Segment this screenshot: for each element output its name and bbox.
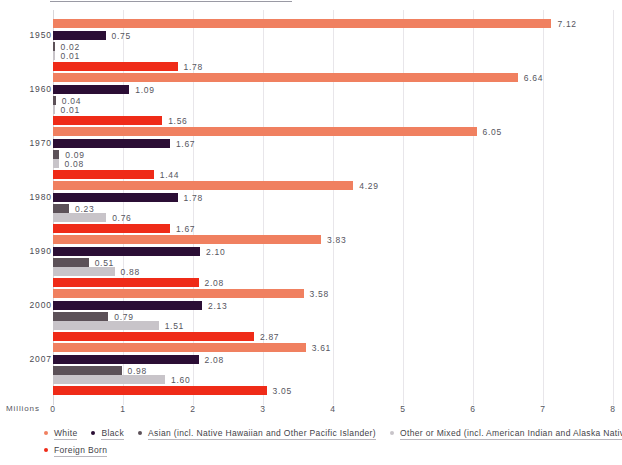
year-group-1990: 19903.832.100.510.882.08 <box>0 226 622 280</box>
bar-row: 0.02 <box>53 37 80 46</box>
bar-value-label: 6.64 <box>524 73 543 83</box>
year-group-1980: 19804.291.780.230.761.67 <box>0 172 622 226</box>
legend-item-asian[interactable]: Asian (incl. Native Hawaiian and Other P… <box>138 424 376 442</box>
bar-value-label: 1.09 <box>135 85 154 95</box>
year-label-1980: 1980 <box>8 192 52 202</box>
bar-row: 1.60 <box>53 370 190 379</box>
x-tick-2: 2 <box>190 404 196 414</box>
legend-label: Black <box>101 428 124 440</box>
bar-row: 0.75 <box>53 26 131 35</box>
bar-row: 1.78 <box>53 188 203 197</box>
bar-row: 1.09 <box>53 80 155 89</box>
x-tick-3: 3 <box>260 404 266 414</box>
legend-row: Foreign Born <box>44 441 622 458</box>
legend-item-black[interactable]: Black <box>91 424 124 442</box>
year-label-2007: 2007 <box>8 354 52 364</box>
year-group-2000: 20003.582.130.791.512.87 <box>0 280 622 334</box>
bar-row: 2.10 <box>53 242 225 251</box>
bar-value-label: 3.58 <box>310 289 329 299</box>
bar-row: 1.67 <box>53 134 195 143</box>
bar-row: 3.05 <box>53 381 292 390</box>
bar-row: 3.61 <box>53 338 331 347</box>
bar-value-label: 1.67 <box>176 139 195 149</box>
bar-row: 7.12 <box>53 14 577 23</box>
bar-row: 1.51 <box>53 316 184 325</box>
bar-row: 3.83 <box>53 230 346 239</box>
legend-label: Other or Mixed (incl. American Indian an… <box>400 428 622 440</box>
legend-item-foreign[interactable]: Foreign Born <box>44 441 107 459</box>
bars-1970: 6.051.670.090.081.44 <box>53 118 622 172</box>
bars-1990: 3.832.100.510.882.08 <box>53 226 622 280</box>
x-tick-0: 0 <box>50 404 56 414</box>
legend-swatch-icon <box>91 431 95 435</box>
legend-swatch-icon <box>390 431 394 435</box>
bars-2007: 3.612.080.981.603.05 <box>53 334 622 388</box>
year-group-2007: 20073.612.080.981.603.05 <box>0 334 622 388</box>
x-axis-caption: Millions <box>6 404 40 413</box>
bar-row: 0.23 <box>53 199 94 208</box>
bar-row: 0.01 <box>53 46 80 55</box>
bar-row: 6.64 <box>53 68 543 77</box>
bar-row: 0.09 <box>53 145 85 154</box>
bar-row: 0.88 <box>53 262 140 271</box>
bars-1950: 7.120.750.020.011.78 <box>53 10 622 64</box>
bar-row: 0.08 <box>53 154 84 163</box>
year-label-2000: 2000 <box>8 300 52 310</box>
legend-item-white[interactable]: White <box>44 424 77 442</box>
bar-row: 2.08 <box>53 350 224 359</box>
legend-swatch-icon <box>138 431 142 435</box>
bar-value-label: 2.10 <box>206 247 225 257</box>
bar-row: 3.58 <box>53 284 329 293</box>
bar-row: 0.01 <box>53 100 80 109</box>
bars-1980: 4.291.780.230.761.67 <box>53 172 622 226</box>
year-label-1950: 1950 <box>8 30 52 40</box>
year-label-1990: 1990 <box>8 246 52 256</box>
x-tick-1: 1 <box>120 404 126 414</box>
bar-value-label: 2.08 <box>205 355 224 365</box>
bar-value-label: 1.78 <box>184 193 203 203</box>
year-group-1970: 19706.051.670.090.081.44 <box>0 118 622 172</box>
year-group-1960: 19606.641.090.040.011.56 <box>0 64 622 118</box>
x-tick-8: 8 <box>610 404 616 414</box>
chart-container: Millions 012345678 WhiteBlackAsian (incl… <box>0 0 622 465</box>
legend-label: White <box>54 428 77 440</box>
bar-row: 6.05 <box>53 122 502 131</box>
x-tick-5: 5 <box>400 404 406 414</box>
x-tick-7: 7 <box>540 404 546 414</box>
bar-row: 4.29 <box>53 176 379 185</box>
x-axis: Millions 012345678 <box>0 402 622 418</box>
bar-row: 0.51 <box>53 253 114 262</box>
year-group-1950: 19507.120.750.020.011.78 <box>0 10 622 64</box>
year-label-1960: 1960 <box>8 84 52 94</box>
bar-row: 0.04 <box>53 91 81 100</box>
bar-value-label: 3.83 <box>327 235 346 245</box>
bars-2000: 3.582.130.791.512.87 <box>53 280 622 334</box>
bar-value-label: 0.75 <box>112 31 131 41</box>
legend-label: Asian (incl. Native Hawaiian and Other P… <box>148 428 376 440</box>
legend-swatch-icon <box>44 448 48 452</box>
chart-legend: WhiteBlackAsian (incl. Native Hawaiian a… <box>44 424 622 458</box>
bar-value-label: 3.61 <box>312 343 331 353</box>
bar-row: 2.13 <box>53 296 227 305</box>
bar-2007-foreign-born[interactable] <box>53 386 267 395</box>
bars-1960: 6.641.090.040.011.56 <box>53 64 622 118</box>
x-tick-4: 4 <box>330 404 336 414</box>
bar-row: 0.79 <box>53 307 134 316</box>
legend-label: Foreign Born <box>54 445 107 457</box>
bar-value-label: 2.13 <box>208 301 227 311</box>
bar-value-label: 4.29 <box>359 181 378 191</box>
title-underline-rule <box>50 1 292 2</box>
legend-item-other[interactable]: Other or Mixed (incl. American Indian an… <box>390 424 622 442</box>
x-tick-6: 6 <box>470 404 476 414</box>
legend-row: WhiteBlackAsian (incl. Native Hawaiian a… <box>44 424 622 441</box>
bar-value-label: 3.05 <box>273 386 292 396</box>
bar-value-label: 7.12 <box>557 19 576 29</box>
bar-value-label: 6.05 <box>483 127 502 137</box>
year-label-1970: 1970 <box>8 138 52 148</box>
bar-row: 0.98 <box>53 361 147 370</box>
legend-swatch-icon <box>44 431 48 435</box>
bar-row: 0.76 <box>53 208 132 217</box>
